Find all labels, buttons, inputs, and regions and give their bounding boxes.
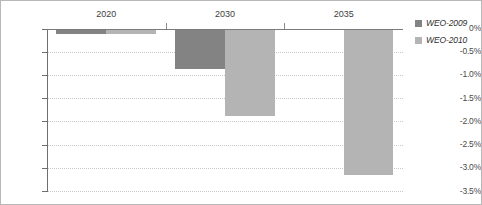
plot-area xyxy=(47,29,403,192)
legend-label-weo-2009: WEO-2009 xyxy=(426,18,467,28)
legend-item-weo-2009[interactable]: WEO-2009 xyxy=(415,18,481,28)
y-axis-line xyxy=(47,29,48,192)
legend-swatch-weo-2009 xyxy=(415,20,422,27)
x-axis-label-2035: 2035 xyxy=(334,9,354,19)
y-axis-tick xyxy=(42,98,47,99)
legend-item-weo-2010[interactable]: WEO-2010 xyxy=(415,35,481,45)
legend-label-weo-2010: WEO-2010 xyxy=(426,35,467,45)
chart-legend: WEO-2009 WEO-2010 xyxy=(415,18,481,52)
x-axis-label-2020: 2020 xyxy=(96,9,116,19)
zero-axis-line xyxy=(47,29,403,30)
y-axis-tick xyxy=(42,145,47,146)
chart-container: 0%-0.5%-1.0%-1.5%-2.0%-2.5%-3.0%-3.5% 20… xyxy=(0,0,482,205)
x-axis-label-2030: 2030 xyxy=(215,9,235,19)
bar-weo-2010-2030 xyxy=(225,29,275,116)
y-axis-label: -3.5% xyxy=(443,186,481,196)
y-axis-tick xyxy=(42,191,47,192)
y-axis-label: -3.0% xyxy=(443,162,481,172)
y-axis-label: -2.5% xyxy=(443,139,481,149)
y-axis-label: -1.5% xyxy=(443,93,481,103)
y-axis-label: -1.0% xyxy=(443,69,481,79)
y-axis-tick xyxy=(42,75,47,76)
legend-swatch-weo-2010 xyxy=(415,37,422,44)
y-axis-tick xyxy=(42,121,47,122)
y-axis-tick xyxy=(42,168,47,169)
y-axis-label: -2.0% xyxy=(443,116,481,126)
gridline xyxy=(47,191,403,192)
y-axis-tick xyxy=(42,52,47,53)
bar-weo-2010-2035 xyxy=(344,29,394,175)
bar-weo-2009-2030 xyxy=(175,29,225,70)
